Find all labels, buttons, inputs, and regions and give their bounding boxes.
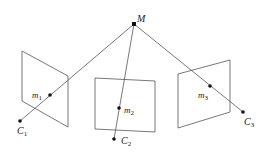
- image-plane-1: [22, 51, 68, 127]
- camera-center-C3: [241, 110, 245, 114]
- ray-1: [20, 24, 134, 121]
- image-point-m1: [48, 93, 52, 97]
- label-C2: C2: [121, 135, 132, 148]
- label-m2: m2: [124, 105, 135, 117]
- world-point-M: [132, 22, 136, 26]
- label-C3: C3: [244, 116, 255, 129]
- camera-center-C1: [18, 119, 22, 123]
- image-point-m2: [117, 106, 121, 110]
- image-point-m3: [208, 84, 212, 88]
- label-m3: m3: [198, 90, 209, 102]
- projection-diagram: M m1 m2 m3 C1 C2 C3: [0, 0, 263, 155]
- ray-2: [114, 24, 134, 139]
- label-m1: m1: [32, 90, 43, 102]
- ray-3: [134, 24, 243, 112]
- camera-center-C2: [112, 137, 116, 141]
- label-C1: C1: [17, 125, 28, 138]
- label-M: M: [136, 13, 146, 24]
